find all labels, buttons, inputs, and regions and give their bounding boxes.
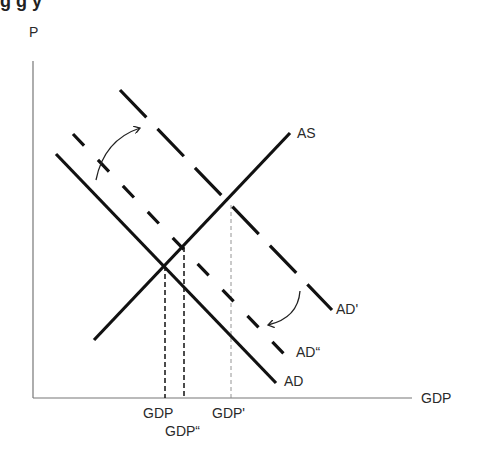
ad-curve: [56, 154, 276, 383]
ad-double-prime-curve: [73, 134, 284, 354]
as-label: AS: [297, 126, 316, 140]
x-axis-label: GDP: [421, 391, 451, 405]
shift-arrow-back-icon: [268, 291, 300, 325]
gdp-marker-label: GDP: [143, 406, 173, 420]
gdp-prime-marker-label: GDP': [212, 406, 245, 420]
ad-prime-label: AD': [336, 302, 358, 316]
ad-double-prime-label: AD“: [296, 345, 320, 359]
ad-label: AD: [284, 374, 303, 388]
y-axis-label: P: [29, 25, 38, 39]
ad-as-diagram: [0, 0, 484, 457]
gdp-double-prime-marker-label: GDP“: [165, 424, 200, 438]
shift-arrow-up-icon: [96, 128, 140, 180]
as-curve: [94, 133, 290, 340]
